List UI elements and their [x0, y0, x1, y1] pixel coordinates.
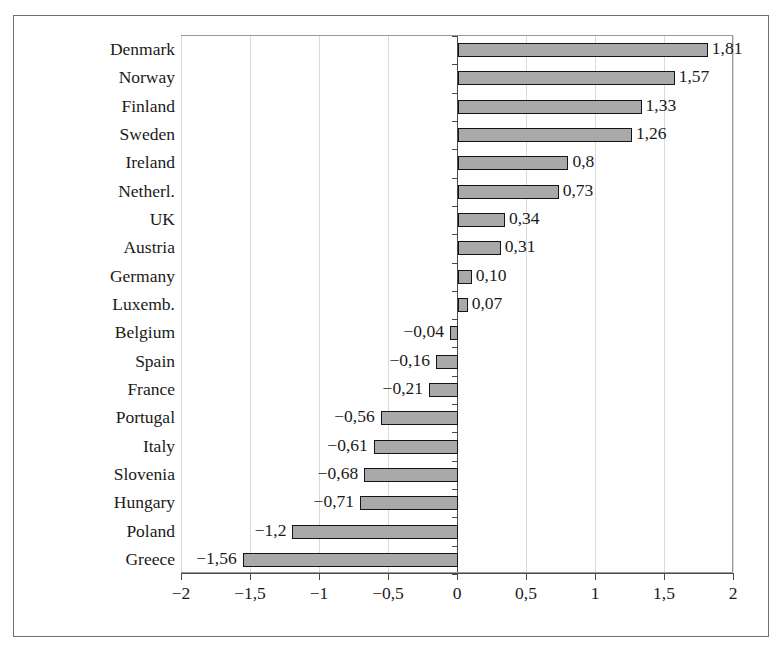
x-axis-tick [526, 573, 527, 580]
gridline [388, 36, 389, 572]
gridline [664, 36, 665, 572]
bar-chart-figure: DenmarkNorwayFinlandSwedenIrelandNetherl… [0, 0, 782, 650]
x-axis-tick-label: 1 [565, 583, 625, 603]
gridline [319, 36, 320, 572]
bar [243, 553, 458, 567]
bar [458, 100, 642, 114]
axis-tick [452, 206, 457, 207]
axis-tick [452, 149, 457, 150]
axis-tick [452, 461, 457, 462]
axis-tick [452, 404, 457, 405]
gridline [595, 36, 596, 572]
x-axis-tick [595, 573, 596, 580]
x-axis-tick-label: −1,5 [220, 583, 280, 603]
bar [458, 128, 632, 142]
x-axis-tick-label: 0 [427, 583, 487, 603]
category-label: Greece [20, 550, 175, 568]
category-label: Poland [20, 522, 175, 540]
x-axis-tick-label: −0,5 [358, 583, 418, 603]
x-axis-tick [319, 573, 320, 580]
category-label: Norway [20, 68, 175, 86]
x-axis-tick-label: −2 [151, 583, 211, 603]
axis-tick [452, 263, 457, 264]
category-label: Netherl. [20, 182, 175, 200]
x-axis-tick [250, 573, 251, 580]
category-label: Italy [20, 437, 175, 455]
category-label: Denmark [20, 40, 175, 58]
bar [458, 213, 505, 227]
axis-tick [452, 291, 457, 292]
bar [436, 355, 458, 369]
bar [458, 43, 708, 57]
x-axis-tick [181, 573, 182, 580]
axis-tick [452, 319, 457, 320]
category-label: Austria [20, 238, 175, 256]
category-label: Luxemb. [20, 295, 175, 313]
bar [292, 525, 458, 539]
x-axis-tick [388, 573, 389, 580]
bar [429, 383, 458, 397]
bar [458, 241, 501, 255]
bar [458, 156, 568, 170]
category-label: Hungary [20, 493, 175, 511]
bar [458, 270, 472, 284]
gridline [250, 36, 251, 572]
axis-tick [452, 517, 457, 518]
category-label: Ireland [20, 153, 175, 171]
category-label: Portugal [20, 408, 175, 426]
bar [450, 326, 458, 340]
category-axis: DenmarkNorwayFinlandSwedenIrelandNetherl… [20, 35, 175, 573]
x-axis-tick-label: 1,5 [634, 583, 694, 603]
category-label: Sweden [20, 125, 175, 143]
plot-area [181, 35, 733, 573]
gridline [733, 36, 734, 572]
axis-tick [452, 347, 457, 348]
axis-tick [452, 432, 457, 433]
category-label: Belgium [20, 323, 175, 341]
gridline [181, 36, 182, 572]
bar [458, 185, 559, 199]
axis-tick [452, 489, 457, 490]
category-label: Spain [20, 352, 175, 370]
axis-tick [452, 121, 457, 122]
category-label: Slovenia [20, 465, 175, 483]
gridline [526, 36, 527, 572]
bar [381, 411, 458, 425]
bar [364, 468, 458, 482]
axis-tick [452, 64, 457, 65]
axis-tick [452, 178, 457, 179]
bar [458, 298, 468, 312]
bar [458, 71, 675, 85]
x-axis-tick-label: 0,5 [496, 583, 556, 603]
bar [374, 440, 458, 454]
x-axis-tick [457, 573, 458, 580]
bar [360, 496, 458, 510]
axis-tick [452, 36, 457, 37]
category-label: Finland [20, 97, 175, 115]
axis-tick [452, 93, 457, 94]
x-axis-tick [664, 573, 665, 580]
x-axis-tick [733, 573, 734, 580]
axis-tick [452, 546, 457, 547]
category-label: France [20, 380, 175, 398]
x-axis-tick-label: −1 [289, 583, 349, 603]
category-label: UK [20, 210, 175, 228]
axis-tick [452, 376, 457, 377]
x-axis-tick-label: 2 [703, 583, 763, 603]
axis-tick [452, 234, 457, 235]
category-label: Germany [20, 267, 175, 285]
